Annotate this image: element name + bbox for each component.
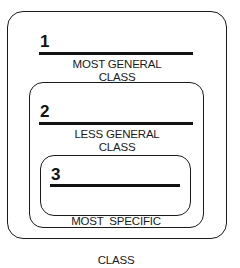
- class-2-number: 2: [40, 103, 49, 120]
- class-1-label: MOST GENERAL CLASS: [39, 58, 195, 84]
- class-3-number: 3: [51, 166, 60, 183]
- class-2-rule: [39, 122, 193, 125]
- class-3-label-line2: CLASS: [48, 254, 184, 267]
- class-2-label-line1: LESS GENERAL: [39, 128, 195, 141]
- class-1-label-line1: MOST GENERAL: [39, 58, 195, 71]
- class-3-label-line1: MOST SPECIFIC: [48, 215, 184, 228]
- class-1-number: 1: [40, 33, 49, 50]
- class-2-label-line2: CLASS: [39, 141, 195, 154]
- class-1-rule: [39, 52, 193, 55]
- class-3-label: MOST SPECIFIC CLASS: [48, 189, 184, 268]
- class-3-rule: [50, 184, 180, 187]
- class-2-label: LESS GENERAL CLASS: [39, 128, 195, 154]
